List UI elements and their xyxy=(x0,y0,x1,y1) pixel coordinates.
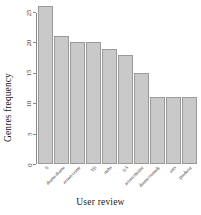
y-axis-tick-label: 10 xyxy=(24,100,31,107)
plot-area xyxy=(38,6,197,164)
bar xyxy=(70,42,85,164)
y-axis-tick-label: 0 xyxy=(26,163,33,166)
bar xyxy=(118,55,133,164)
bar xyxy=(150,97,165,164)
bar-column xyxy=(166,6,181,164)
bar xyxy=(182,97,197,164)
y-axis-tick: 0 xyxy=(0,164,36,165)
x-axis-tick-label: mrbs xyxy=(103,165,113,175)
bar xyxy=(134,73,149,164)
x-axis-tick-label: fi xyxy=(44,165,50,171)
y-axis-tick: 5 xyxy=(0,134,36,135)
y-axis-tick-label: 5 xyxy=(26,132,33,135)
x-axis-tick-label: 2c5 xyxy=(121,165,129,173)
bar xyxy=(38,6,53,164)
x-axis-tick-label: ants xyxy=(168,165,177,174)
bar xyxy=(102,49,117,164)
barplot-figure: Genres frequency 0510152025 fidrama/dram… xyxy=(0,0,201,215)
y-axis-line xyxy=(36,13,37,164)
y-axis-tick: 25 xyxy=(0,12,36,13)
bar-column xyxy=(70,6,85,164)
bar-column xyxy=(86,6,101,164)
bar-column xyxy=(118,6,133,164)
y-axis-tick-mark xyxy=(33,103,36,104)
bar-column xyxy=(150,6,165,164)
y-axis-tick-mark xyxy=(33,164,36,165)
y-axis-tick: 10 xyxy=(0,103,36,104)
y-axis-tick: 15 xyxy=(0,73,36,74)
bar xyxy=(54,36,69,164)
bar xyxy=(166,97,181,164)
bar xyxy=(86,42,101,164)
y-axis-tick-label: 20 xyxy=(24,40,31,47)
x-axis-tick-label: producer xyxy=(178,165,193,180)
y-axis-title: Genres frequency xyxy=(0,0,16,215)
x-axis-title: User review xyxy=(0,197,201,207)
y-axis-tick-mark xyxy=(33,12,36,13)
bar-column xyxy=(38,6,53,164)
y-axis-tick-label: 15 xyxy=(24,70,31,77)
bar-series xyxy=(38,6,197,164)
y-axis-tick-mark xyxy=(33,134,36,135)
bar-column xyxy=(182,6,197,164)
x-axis-tick-label: TD xyxy=(89,165,97,173)
bar-column xyxy=(102,6,117,164)
y-axis-tick-mark xyxy=(33,42,36,43)
bar-column xyxy=(134,6,149,164)
y-axis-tick-label: 25 xyxy=(24,9,31,16)
y-axis-tick: 20 xyxy=(0,42,36,43)
x-axis-tick-labels: fidrama/dramaaction/crimeTDmrbs2c5action… xyxy=(38,165,197,197)
y-axis-tick-mark xyxy=(33,73,36,74)
bar-column xyxy=(54,6,69,164)
